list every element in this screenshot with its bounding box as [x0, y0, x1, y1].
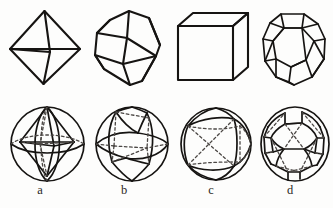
figure-spherical-cube: [176, 104, 256, 184]
figure-label-d: d: [278, 182, 302, 198]
figure-plate: a b c d: [0, 0, 333, 208]
spherical-truncated-octahedron-drawing: [258, 104, 332, 184]
figure-rhombic-dodecahedron: [86, 4, 168, 92]
figure-spherical-octahedron: [6, 104, 88, 184]
truncated-octahedron-drawing: [256, 5, 332, 93]
figure-octahedron: [6, 4, 86, 92]
figure-label-row: a b c d: [0, 182, 333, 208]
figure-cube: [172, 7, 254, 91]
cube-drawing: [172, 7, 254, 91]
figure-label-b: b: [112, 182, 136, 198]
rhombic-dodecahedron-drawing: [86, 4, 168, 92]
figure-label-c: c: [199, 182, 223, 198]
spherical-cube-drawing: [176, 104, 256, 184]
octahedron-drawing: [6, 4, 86, 92]
figure-label-a: a: [28, 182, 52, 198]
figure-spherical-rhombic-dodecahedron: [92, 104, 172, 184]
spherical-octahedron-drawing: [6, 104, 88, 184]
figure-spherical-truncated-octahedron: [258, 104, 332, 184]
spherical-rhombic-dodecahedron-drawing: [92, 104, 172, 184]
figure-truncated-octahedron: [256, 5, 332, 93]
